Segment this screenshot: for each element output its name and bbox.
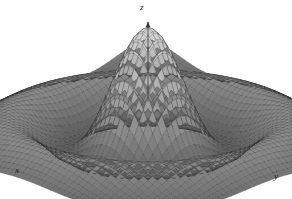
y-axis-label: y [274,172,278,181]
x-axis-label: x [15,166,19,175]
surface-plot-figure: x y z [0,0,292,199]
surface-plot-canvas [0,0,292,199]
z-axis-label: z [140,3,144,12]
